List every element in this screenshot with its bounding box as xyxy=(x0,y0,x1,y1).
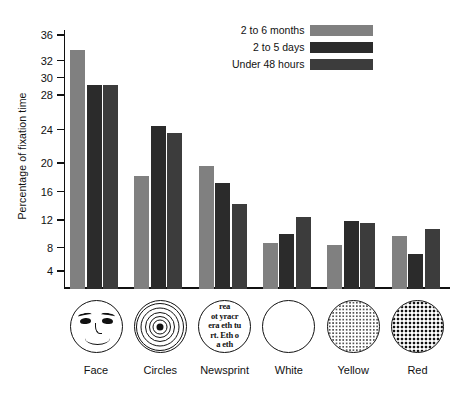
stimulus-cell-yellow: Yellow xyxy=(322,300,384,376)
yellow-stippled-disc-icon xyxy=(327,300,380,353)
bar xyxy=(263,243,278,289)
y-axis-tick-label: 20 xyxy=(29,158,53,169)
bar xyxy=(70,50,85,289)
bar-group xyxy=(128,0,192,289)
category-label: Face xyxy=(65,364,127,376)
bar-group xyxy=(386,0,450,289)
bar xyxy=(279,234,294,289)
y-axis-tick-label: 16 xyxy=(29,186,53,197)
fixation-time-bar-chart: 2 to 6 months 2 to 5 days Under 48 hours… xyxy=(0,0,461,401)
y-axis-title: Percentage of fixation time xyxy=(16,66,28,246)
category-label: White xyxy=(258,364,320,376)
y-axis-tick-label: 36 xyxy=(29,30,53,41)
bar-group xyxy=(321,0,385,289)
stimulus-cell-newsprint: reaot yracrera eth turt. Eth oa ethNewsp… xyxy=(194,300,256,376)
bar xyxy=(167,133,182,289)
plot-area: Percentage of fixation time 363230282420… xyxy=(0,0,461,300)
y-axis-tick-label: 4 xyxy=(29,266,53,277)
y-axis-tick-label: 24 xyxy=(29,124,53,135)
red-crosshatch-disc-icon xyxy=(391,300,444,353)
concentric-circles-icon xyxy=(134,300,187,353)
newsprint-text: reaot yracrera eth turt. Eth oa eth xyxy=(199,301,250,352)
category-label: Red xyxy=(387,364,449,376)
y-axis-tick-label: 28 xyxy=(29,90,53,101)
newsprint-text-circle-icon: reaot yracrera eth turt. Eth oa eth xyxy=(198,300,251,353)
smiley-face-circle-icon xyxy=(70,300,123,353)
bar xyxy=(134,176,149,289)
stimulus-cell-face: Face xyxy=(65,300,127,376)
bar xyxy=(87,85,102,289)
bar xyxy=(151,126,166,289)
y-axis-ticks: 363230282420161284 xyxy=(33,0,59,300)
bar xyxy=(103,85,118,289)
bar xyxy=(344,221,359,289)
bar xyxy=(360,223,375,289)
y-axis-tick-label: 8 xyxy=(29,242,53,253)
y-axis-tick-label: 32 xyxy=(29,55,53,66)
bar xyxy=(215,183,230,289)
bar xyxy=(327,245,342,289)
bar-group xyxy=(64,0,128,289)
bar xyxy=(296,217,311,289)
bar-group xyxy=(257,0,321,289)
category-label: Circles xyxy=(129,364,191,376)
bar-groups xyxy=(64,0,450,289)
bar xyxy=(425,229,440,289)
white-disc-icon xyxy=(262,300,315,353)
y-axis-tick-label: 12 xyxy=(29,215,53,226)
stimulus-cell-white: White xyxy=(258,300,320,376)
category-label: Newsprint xyxy=(194,364,256,376)
bar xyxy=(199,166,214,289)
stimulus-icon-row: FaceCirclesreaot yracrera eth turt. Eth … xyxy=(64,300,450,395)
bar xyxy=(392,236,407,289)
newsprint-line: a eth xyxy=(199,340,250,350)
y-axis-tick-label: 30 xyxy=(29,72,53,83)
stimulus-cell-circles: Circles xyxy=(129,300,191,376)
category-label: Yellow xyxy=(322,364,384,376)
stimulus-cell-red: Red xyxy=(387,300,449,376)
bar-group xyxy=(193,0,257,289)
bar xyxy=(232,204,247,289)
bar xyxy=(408,254,423,289)
